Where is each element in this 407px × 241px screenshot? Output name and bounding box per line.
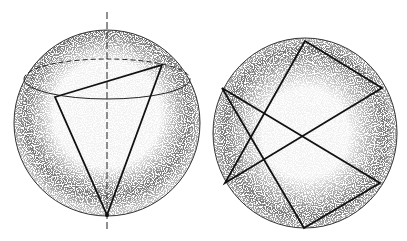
figure-canvas [0,0,407,241]
apex-point [105,213,109,217]
left-sphere [14,12,200,231]
right-sphere [213,38,397,228]
right-sphere-stipple [213,38,397,228]
